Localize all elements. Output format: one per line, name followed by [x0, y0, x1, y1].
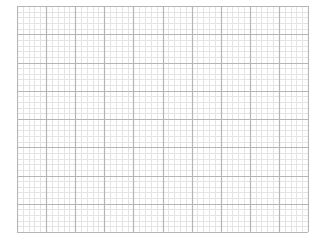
graph-paper-grid: [17, 6, 308, 232]
grid-lines: [17, 6, 309, 233]
